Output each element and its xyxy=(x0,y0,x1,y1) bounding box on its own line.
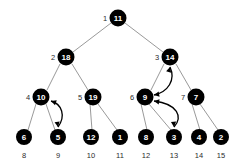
node-index-label-1: 1 xyxy=(103,14,107,23)
tree-node-9[interactable]: 59 xyxy=(50,129,66,160)
tree-edge-7-15 xyxy=(200,104,218,130)
heap-tree-diagram: 1111821431041959677685912101118123134142… xyxy=(0,0,230,167)
node-value-12: 8 xyxy=(144,133,149,142)
node-value-11: 1 xyxy=(118,133,123,142)
node-index-label-15: 15 xyxy=(217,151,225,160)
node-index-label-10: 10 xyxy=(87,151,95,160)
tree-node-14[interactable]: 414 xyxy=(191,129,207,160)
tree-edge-3-7 xyxy=(176,64,191,90)
node-index-label-12: 12 xyxy=(142,151,150,160)
swap-10-5-head-a xyxy=(50,99,57,106)
node-value-5: 19 xyxy=(89,93,98,102)
tree-edge-2-5 xyxy=(72,64,88,90)
tree-node-6[interactable]: 96 xyxy=(130,89,154,106)
node-value-3: 14 xyxy=(166,53,175,62)
tree-edges xyxy=(28,23,218,130)
node-index-label-14: 14 xyxy=(195,151,203,160)
node-index-label-2: 2 xyxy=(51,53,55,62)
tree-node-11[interactable]: 111 xyxy=(112,129,128,160)
node-value-7: 7 xyxy=(194,93,199,102)
node-value-8: 6 xyxy=(22,133,27,142)
node-index-label-3: 3 xyxy=(155,53,159,62)
tree-node-15[interactable]: 215 xyxy=(213,129,229,160)
tree-node-5[interactable]: 195 xyxy=(78,89,102,106)
tree-node-4[interactable]: 104 xyxy=(26,89,50,106)
node-index-label-6: 6 xyxy=(130,93,134,102)
node-index-label-7: 7 xyxy=(181,93,185,102)
tree-nodes: 1111821431041959677685912101118123134142… xyxy=(16,10,229,160)
node-index-label-11: 11 xyxy=(116,151,124,160)
tree-node-1[interactable]: 111 xyxy=(103,10,127,27)
tree-node-7[interactable]: 77 xyxy=(181,89,205,106)
node-index-label-8: 8 xyxy=(22,151,26,160)
tree-edge-3-6 xyxy=(151,64,164,90)
node-index-label-13: 13 xyxy=(170,151,178,160)
node-value-10: 12 xyxy=(87,133,96,142)
tree-edge-5-10 xyxy=(90,104,92,130)
node-value-6: 9 xyxy=(143,93,148,102)
node-value-14: 4 xyxy=(197,133,202,142)
tree-edge-1-3 xyxy=(125,23,163,52)
tree-edge-6-12 xyxy=(141,104,147,130)
tree-edge-4-9 xyxy=(46,104,55,130)
tree-edge-4-8 xyxy=(28,104,36,130)
tree-edge-2-4 xyxy=(47,64,60,90)
tree-node-3[interactable]: 143 xyxy=(155,49,179,66)
node-index-label-5: 5 xyxy=(78,93,82,102)
node-index-label-4: 4 xyxy=(26,93,30,102)
tree-edge-7-14 xyxy=(192,104,200,130)
node-index-label-9: 9 xyxy=(56,151,60,160)
node-value-2: 18 xyxy=(62,53,71,62)
tree-node-8[interactable]: 68 xyxy=(16,129,32,160)
node-value-4: 10 xyxy=(37,93,46,102)
tree-node-12[interactable]: 812 xyxy=(138,129,154,160)
tree-edge-1-2 xyxy=(73,23,111,52)
tree-edge-5-11 xyxy=(98,104,117,130)
tree-canvas: 1111821431041959677685912101118123134142… xyxy=(0,0,230,167)
tree-node-10[interactable]: 1210 xyxy=(83,129,99,160)
swap-arrows xyxy=(50,66,178,127)
tree-node-2[interactable]: 182 xyxy=(51,49,75,66)
tree-edge-6-13 xyxy=(149,104,171,130)
node-value-13: 3 xyxy=(172,133,177,142)
node-value-15: 2 xyxy=(219,133,224,142)
tree-node-13[interactable]: 313 xyxy=(166,129,182,160)
node-value-9: 5 xyxy=(56,133,61,142)
node-value-1: 11 xyxy=(114,14,123,23)
